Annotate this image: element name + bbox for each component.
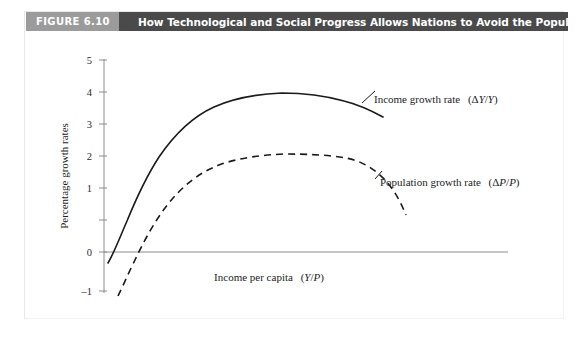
y-tick-label-5: 5 [87, 55, 92, 66]
income-label-paren-close: ) [494, 93, 498, 106]
x-axis-title-paren-close: ) [320, 271, 324, 284]
income-label-delta: Δ [472, 93, 479, 105]
y-tick-label-4: 4 [87, 87, 93, 98]
figure-title: How Technological and Social Progress Al… [138, 16, 585, 28]
x-axis-title: Income per capita (Y/P) [214, 271, 324, 284]
y-tick-label-3: 3 [87, 119, 92, 130]
plot-area: 5 4 3 2 1 0 –1 Percentage growth rates I… [26, 31, 566, 318]
population-growth-rate-label-text: Population growth rate [380, 176, 481, 188]
x-axis-title-text: Income per capita [214, 271, 293, 283]
y-tick-label-2: 2 [87, 151, 92, 162]
figure-number-badge: FIGURE 6.10 [26, 12, 119, 31]
income-growth-curve [108, 93, 383, 263]
chart-svg: 5 4 3 2 1 0 –1 Percentage growth rates I… [26, 31, 566, 318]
y-tick-label-0: 0 [87, 247, 92, 258]
y-axis-title: Percentage growth rates [58, 123, 70, 229]
population-label-paren-close: ) [516, 176, 520, 189]
y-tick-label-1: 1 [87, 183, 92, 194]
figure-title-bar: FIGURE 6.10 How Technological and Social… [26, 12, 568, 31]
figure-root: FIGURE 6.10 How Technological and Social… [0, 0, 585, 338]
y-tick-label-minus-1: –1 [81, 286, 93, 297]
population-label-delta: Δ [492, 176, 499, 188]
income-growth-rate-label-text: Income growth rate [374, 93, 460, 105]
population-growth-rate-label: Population growth rate (ΔP/P) [380, 176, 520, 189]
income-growth-rate-label: Income growth rate (ΔY/Y) [374, 93, 498, 106]
